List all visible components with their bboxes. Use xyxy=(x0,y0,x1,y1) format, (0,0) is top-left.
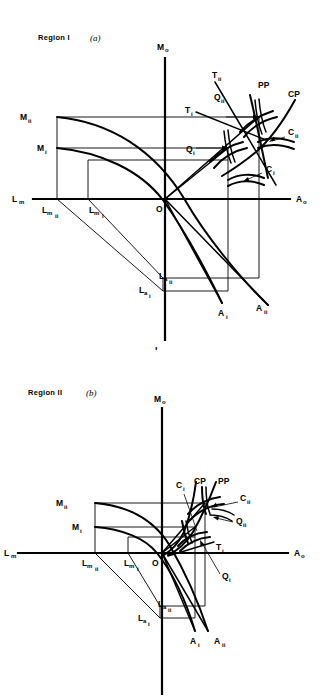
axis-label-mo: M xyxy=(154,394,161,404)
axis-label-lm-sub: m xyxy=(11,553,16,559)
label-a-ii: A xyxy=(214,636,220,646)
label-m-ii-sub: ii xyxy=(64,504,68,510)
label-q-ii-sub: ii xyxy=(243,522,247,528)
label-m-i-sub: i xyxy=(45,149,47,155)
label-a-i-sub: i xyxy=(226,314,228,320)
label-c-ii: C xyxy=(240,493,246,503)
label-m-i-sub: i xyxy=(80,528,82,534)
label-cp: CP xyxy=(288,89,300,99)
label-c-i-sub: i xyxy=(183,486,185,492)
label-lm-i-sub: m xyxy=(94,210,99,216)
label-lm-ii-sub: m xyxy=(47,210,52,216)
label-q-ii-sub: ii xyxy=(221,98,225,104)
figure-a-title-suffix: (a) xyxy=(90,33,101,43)
label-m-ii: M xyxy=(20,112,27,122)
label-a-i: A xyxy=(190,636,196,646)
label-c-i: C xyxy=(176,480,182,490)
label-m-i: M xyxy=(37,143,44,153)
label-la-ii-sub2: ii xyxy=(169,279,173,285)
label-q-ii: Q xyxy=(236,516,243,526)
label-a-i-sub: i xyxy=(198,642,200,648)
label-lm-ii-sub: m xyxy=(87,563,92,569)
ray-to-aii xyxy=(165,199,268,305)
axis-label-mo-sub: o xyxy=(162,399,166,405)
axis-label-lm: L xyxy=(12,194,17,204)
label-a-ii: A xyxy=(256,303,262,313)
label-lm-ii-sub2: ii xyxy=(95,566,99,572)
figure-region-ii: Region II (b) M o L m A o O xyxy=(0,346,322,696)
label-pp: PP xyxy=(218,476,230,486)
axis-label-mo-sub: o xyxy=(165,47,169,53)
ray-to-aii xyxy=(162,553,208,631)
origin-label: O xyxy=(152,558,159,568)
label-m-i: M xyxy=(72,522,79,532)
label-la-i-sub2: i xyxy=(149,293,151,299)
indifference-curve-cii-b xyxy=(258,145,294,149)
label-lm-ii-sub2: ii xyxy=(55,213,59,219)
label-c-ii-sub: ii xyxy=(295,133,299,139)
label-la-i-sub: a xyxy=(144,290,148,296)
label-a-ii-sub: ii xyxy=(222,642,226,648)
label-c-i: C xyxy=(266,164,272,174)
figure-a-title: Region I xyxy=(38,33,70,42)
axis-label-mo: M xyxy=(157,42,164,52)
label-t-i-sub: i xyxy=(191,111,193,117)
origin-label: O xyxy=(156,204,163,214)
label-q-ii: Q xyxy=(214,92,221,102)
label-q-i-sub: i xyxy=(193,150,195,156)
label-t-ii-sub: ii xyxy=(218,76,222,82)
budget-line-ii xyxy=(57,199,163,291)
label-pp: PP xyxy=(258,80,270,90)
figure-region-i: Region I (a) M o L a L m A o O xyxy=(0,0,322,350)
label-m-ii-sub: ii xyxy=(28,118,32,124)
label-lm-i-sub: m xyxy=(129,563,134,569)
label-la-ii-sub: a xyxy=(164,276,168,282)
figure-b-title-suffix: (b) xyxy=(86,388,97,398)
label-la-ii-sub: a xyxy=(163,604,167,610)
axis-label-ao-sub: o xyxy=(301,553,305,559)
figure-b-title: Region II xyxy=(28,388,62,397)
axis-label-lm: L xyxy=(4,548,9,558)
axis-label-ao: A xyxy=(296,194,302,204)
label-q-i: Q xyxy=(222,571,229,581)
axis-label-lm-sub: m xyxy=(19,199,24,205)
ray-to-ai xyxy=(162,553,195,631)
axis-label-ao-sub: o xyxy=(303,199,307,205)
label-cp: CP xyxy=(194,476,206,486)
label-a-ii-sub: ii xyxy=(264,309,268,315)
label-la-i-sub2: i xyxy=(148,621,150,627)
label-la-i-sub: a xyxy=(143,618,147,624)
ray-to-qi xyxy=(165,148,228,199)
indifference-curve-qii-f xyxy=(210,515,232,521)
label-q-i-sub: i xyxy=(229,577,231,583)
leader-qii-arrow xyxy=(213,516,219,521)
axis-label-ao: A xyxy=(294,548,300,558)
label-a-i: A xyxy=(218,308,224,318)
label-la-ii-sub2: ii xyxy=(168,607,172,613)
label-c-ii-sub: ii xyxy=(247,499,251,505)
label-q-i: Q xyxy=(186,144,193,154)
label-m-ii: M xyxy=(56,498,63,508)
label-c-ii: C xyxy=(288,127,294,137)
leader-ci-arrow xyxy=(243,177,250,182)
label-c-i-sub: i xyxy=(273,170,275,176)
indifference-curve-qii-e xyxy=(212,509,234,515)
